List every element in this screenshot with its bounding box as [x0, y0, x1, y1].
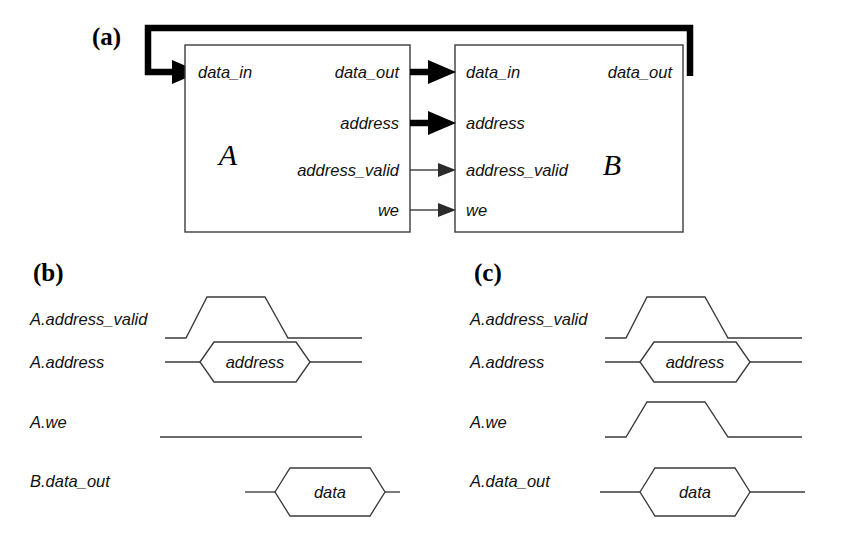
- block-a-port-address-valid: address_valid: [297, 161, 400, 179]
- block-b-port-data-out: data_out: [608, 63, 674, 81]
- connection-we: [410, 203, 456, 217]
- panel-b-signal-label-address-valid: A.address_valid: [29, 310, 148, 328]
- panel-c-signal-label-address-valid: A.address_valid: [469, 310, 588, 328]
- panel-c-signal-label-address: A.address: [469, 353, 544, 371]
- panel-b-waveform-data-out: data: [245, 468, 400, 516]
- connection-data-out: [410, 60, 456, 84]
- panel-b-address-bus-value: address: [226, 353, 285, 371]
- panel-b-data-bus-value: data: [314, 483, 346, 501]
- connection-address: [410, 111, 456, 135]
- panel-c-signal-label-data-out: A.data_out: [469, 472, 551, 490]
- panel-b-signal-label-data-out: B.data_out: [30, 472, 111, 490]
- block-a-port-data-out: data_out: [335, 63, 401, 81]
- panel-b-signal-label-address: A.address: [29, 353, 104, 371]
- panel-a-letter: (a): [92, 23, 121, 51]
- block-a-letter: A: [217, 138, 238, 171]
- block-b: B data_in address address_valid we data_…: [455, 45, 683, 232]
- panel-a: (a) A data_in data_out address address_v…: [92, 23, 690, 232]
- connection-address-arrowhead: [428, 111, 456, 135]
- panel-c-address-bus-value: address: [666, 353, 725, 371]
- block-b-letter: B: [603, 148, 621, 181]
- block-a-port-we: we: [378, 201, 399, 219]
- block-a-port-address: address: [340, 114, 399, 132]
- block-a-port-data-in: data_in: [198, 63, 252, 81]
- panel-b: (b) A.address_valid A.address A.we B.dat…: [29, 259, 400, 516]
- block-and-timing-figure: (a) A data_in data_out address address_v…: [0, 0, 851, 533]
- panel-b-waveform-address: address: [165, 342, 362, 382]
- figure-root: (a) A data_in data_out address address_v…: [0, 0, 851, 533]
- block-b-port-data-in: data_in: [466, 63, 520, 81]
- panel-c-signal-label-we: A.we: [469, 413, 507, 431]
- panel-c-waveform-data-out: data: [600, 468, 805, 516]
- panel-c: (c) A.address_valid A.address A.we A.dat…: [469, 259, 805, 516]
- connection-we-arrowhead: [438, 203, 456, 217]
- block-a: A data_in data_out address address_valid…: [185, 45, 410, 232]
- panel-b-signal-label-we: A.we: [29, 413, 67, 431]
- block-b-port-address: address: [466, 114, 525, 132]
- connection-address-valid: [410, 163, 456, 177]
- panel-b-waveform-address-valid: [165, 297, 362, 338]
- panel-c-data-bus-value: data: [679, 483, 711, 501]
- block-b-port-address-valid: address_valid: [466, 161, 569, 179]
- panel-c-waveform-address: address: [605, 342, 802, 382]
- panel-c-waveform-we: [605, 402, 802, 437]
- connection-data-out-arrowhead: [428, 60, 456, 84]
- connection-address-valid-arrowhead: [438, 163, 456, 177]
- block-b-port-we: we: [466, 201, 487, 219]
- panel-c-waveform-address-valid: [605, 297, 802, 338]
- panel-b-letter: (b): [33, 259, 64, 287]
- panel-c-letter: (c): [474, 259, 502, 287]
